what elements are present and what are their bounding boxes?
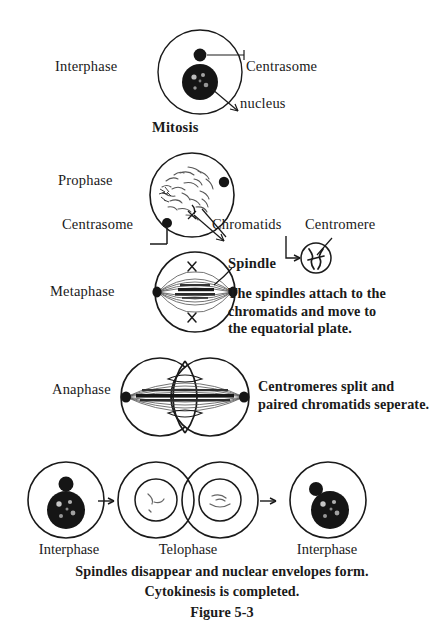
centrosome-dot-upper [219, 177, 229, 187]
chromatid-marks [188, 262, 196, 322]
nucleus-shape [311, 491, 349, 529]
bottom-label-interphase-right: Interphase [272, 541, 382, 558]
centrosome-dot [59, 477, 74, 492]
metaphase-description-line-1: The spindles attach to the [228, 285, 386, 303]
chromatin-marks [148, 494, 230, 512]
telophase-cell-diagram [108, 458, 268, 544]
phase-label-anaphase: Anaphase [52, 382, 111, 397]
centrosome-dot [194, 49, 207, 62]
nucleus-shape [182, 64, 218, 100]
figure-canvas: Interphase Centrasome nucleus Mitosis Pr… [0, 0, 444, 641]
chromatin-cluster [159, 187, 171, 202]
inset-pointer-arrow [286, 236, 300, 261]
centrosome-pole-right [239, 391, 249, 402]
phase-label-prophase: Prophase [58, 173, 113, 188]
anaphase-description-line-1: Centromeres split and [258, 378, 429, 396]
phase-label-interphase-top: Interphase [55, 59, 117, 74]
interphase-cell-right-diagram [272, 458, 382, 544]
chromosome-x-shape [308, 249, 324, 269]
reforming-nuclei [135, 479, 241, 521]
chromatids-shape [188, 205, 196, 219]
bottom-label-interphase-left: Interphase [14, 541, 124, 558]
anaphase-cell-diagram [110, 351, 260, 443]
metaphase-description: The spindles attach to the chromatids an… [228, 285, 386, 338]
centrosome-pole-left [152, 287, 161, 298]
centrosome-dot-lower [162, 218, 172, 228]
bottom-label-telophase: Telophase [133, 541, 243, 558]
section-heading-mitosis: Mitosis [152, 120, 199, 135]
spindle-fibers [158, 272, 232, 312]
nucleus-leader-line [212, 89, 238, 111]
phase-label-metaphase: Metaphase [50, 284, 115, 299]
bottom-description-line-1: Spindles disappear and nuclear envelopes… [0, 563, 444, 580]
callout-centrosome-interphase: Centrasome [246, 59, 317, 74]
metaphase-description-line-2: chromatids and move to [228, 303, 386, 321]
callout-spindle: Spindle [228, 256, 276, 271]
callout-nucleus: nucleus [240, 96, 286, 111]
callout-centrosome-prophase: Centrasome [62, 217, 133, 232]
metaphase-description-line-3: the equatorial plate. [228, 320, 386, 338]
nucleus-shape [47, 491, 85, 529]
centromere-inset-diagram [272, 228, 352, 280]
anaphase-description-line-2: paired chromatids seperate. [258, 396, 429, 414]
bottom-description-line-2: Cytokinesis is completed. [0, 583, 444, 600]
anaphase-description: Centromeres split and paired chromatids … [258, 378, 429, 413]
daughter-cell-outlines [118, 462, 258, 538]
centrosome-pole-left [121, 391, 131, 402]
figure-title: Figure 5-3 [0, 604, 444, 621]
